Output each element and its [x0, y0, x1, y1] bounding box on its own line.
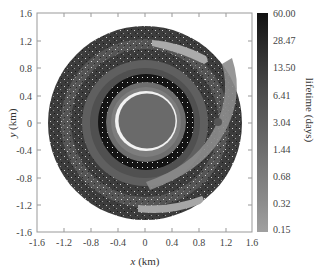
x-tick-label: -0.4 [110, 237, 126, 248]
colorbar-tick-label: 60.00 [273, 8, 296, 19]
x-tick-label: -1.2 [56, 237, 72, 248]
colorbar-tick-label: 0.15 [273, 224, 291, 235]
y-tick-label: 1.2 [20, 36, 33, 47]
y-tick-labels: 1.6 1.2 0.8 0.4 0 -0.4 -0.8 -1.2 -1.6 [16, 8, 32, 238]
colorbar-tick-label: 0.32 [273, 198, 291, 209]
colorbar-label: lifetime (days) [303, 78, 315, 143]
colorbar-tick-label: 28.47 [273, 35, 296, 46]
x-axis-label: x (km) [129, 255, 159, 268]
colorbar-tick-label: 3.04 [273, 117, 291, 128]
colorbar-tick-labels: 60.00 28.47 13.50 6.41 3.04 1.44 0.68 0.… [273, 8, 296, 235]
x-tick-label: -1.6 [29, 237, 45, 248]
y-tick-label: -1.6 [16, 227, 32, 238]
lifetime-map-figure: -1.6 -1.2 -0.8 -0.4 0 0.4 0.8 1.2 1.6 x … [0, 0, 315, 277]
colorbar-tick-label: 6.41 [273, 90, 291, 101]
y-tick-label: 0 [27, 118, 32, 129]
y-tick-label: -0.8 [16, 173, 32, 184]
colorbar [257, 13, 268, 232]
colorbar-tick-label: 0.68 [273, 171, 291, 182]
x-tick-labels: -1.6 -1.2 -0.8 -0.4 0 0.4 0.8 1.2 1.6 [29, 237, 258, 248]
y-tick-label: 0.8 [20, 63, 33, 74]
y-axis-label: y (km) [6, 108, 19, 138]
dark-spot [214, 118, 222, 126]
plot-area [48, 26, 242, 220]
x-tick-label: 0.4 [166, 237, 179, 248]
y-tick-label: 1.6 [20, 8, 33, 19]
x-tick-label: 0 [143, 237, 148, 248]
central-body [119, 94, 176, 149]
x-tick-label: 1.2 [220, 237, 233, 248]
x-tick-label: 0.8 [193, 237, 206, 248]
colorbar-tick-label: 1.44 [273, 144, 291, 155]
y-tick-label: -0.4 [16, 145, 32, 156]
y-tick-label: -1.2 [16, 200, 32, 211]
colorbar-tick-label: 13.50 [273, 62, 296, 73]
x-tick-label: -0.8 [83, 237, 99, 248]
x-tick-label: 1.6 [246, 237, 259, 248]
y-tick-label: 0.4 [20, 91, 33, 102]
